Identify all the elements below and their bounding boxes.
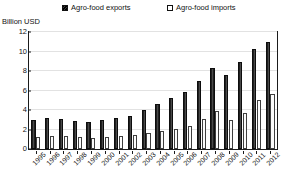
chart-plot-area: 024681012 199519961997199819992000200120… — [0, 0, 285, 180]
x-axis-tick-label: 2007 — [196, 151, 213, 168]
x-axis-tick-label: 2000 — [100, 151, 117, 168]
bar-exports — [224, 75, 228, 149]
x-axis: 1995199619971998199920002001200220032004… — [29, 151, 277, 180]
bar-group — [236, 32, 250, 149]
bar-imports — [105, 137, 109, 149]
bar-imports — [36, 137, 40, 149]
x-axis-tick-mark — [174, 151, 175, 154]
x-axis-tick-label: 1997 — [58, 151, 75, 168]
bar-group — [70, 32, 84, 149]
bar-exports — [155, 104, 159, 149]
bar-exports — [86, 122, 90, 149]
x-axis-tick-label: 2002 — [127, 151, 144, 168]
bar-exports — [169, 98, 173, 149]
bar-imports — [202, 119, 206, 149]
bar-group — [112, 32, 126, 149]
bar-exports — [238, 62, 242, 149]
bar-group — [263, 32, 277, 149]
bar-exports — [183, 92, 187, 149]
x-axis-tick-mark — [77, 151, 78, 154]
x-axis-tick-label: 2006 — [182, 151, 199, 168]
x-axis-tick-mark — [50, 151, 51, 154]
x-axis-tick-label: 1999 — [86, 151, 103, 168]
x-axis-tick-label: 1998 — [72, 151, 89, 168]
x-axis-tick-mark — [119, 151, 120, 154]
bar-imports — [146, 133, 150, 149]
x-axis-tick-mark — [229, 151, 230, 154]
x-axis-tick-label: 2009 — [224, 151, 241, 168]
x-axis-tick-mark — [105, 151, 106, 154]
bar-exports — [210, 68, 214, 149]
bar-group — [29, 32, 43, 149]
x-axis-tick-label: 2003 — [141, 151, 158, 168]
bar-group — [153, 32, 167, 149]
bar-group — [222, 32, 236, 149]
bar-group — [139, 32, 153, 149]
bar-group — [167, 32, 181, 149]
x-axis-tick-mark — [256, 151, 257, 154]
bar-imports — [50, 136, 54, 149]
y-axis: 024681012 — [0, 31, 28, 150]
x-axis-tick-label: 2008 — [210, 151, 227, 168]
bar-exports — [114, 118, 118, 149]
bar-imports — [257, 100, 261, 149]
bar-group — [98, 32, 112, 149]
bar-exports — [266, 42, 270, 149]
bar-imports — [215, 111, 219, 149]
x-axis-tick-mark — [91, 151, 92, 154]
y-axis-tick-label: 2 — [23, 126, 27, 134]
y-axis-tick-label: 12 — [19, 28, 27, 36]
bar-exports — [45, 118, 49, 149]
bar-exports — [142, 110, 146, 149]
bar-group — [194, 32, 208, 149]
y-axis-tick-label: 8 — [23, 67, 27, 75]
bar-imports — [160, 131, 164, 149]
bar-imports — [270, 94, 274, 149]
x-axis-tick-mark — [187, 151, 188, 154]
x-axis-tick-mark — [146, 151, 147, 154]
x-axis-tick-mark — [270, 151, 271, 154]
y-axis-tick-label: 10 — [19, 48, 27, 56]
y-axis-tick-label: 0 — [23, 145, 27, 153]
bar-exports — [59, 119, 63, 149]
x-axis-tick-mark — [160, 151, 161, 154]
bar-imports — [188, 126, 192, 149]
bar-exports — [31, 120, 35, 149]
bar-group — [208, 32, 222, 149]
y-axis-tick-label: 6 — [23, 87, 27, 95]
y-axis-tick-label: 4 — [23, 106, 27, 114]
x-axis-tick-mark — [132, 151, 133, 154]
bar-imports — [119, 136, 123, 149]
x-axis-tick-label: 2011 — [251, 151, 267, 167]
bar-imports — [133, 135, 137, 149]
bar-group — [181, 32, 195, 149]
bar-exports — [252, 49, 256, 149]
bar-group — [249, 32, 263, 149]
x-axis-tick-mark — [243, 151, 244, 154]
bar-exports — [197, 81, 201, 149]
bar-group — [43, 32, 57, 149]
x-axis-tick-mark — [63, 151, 64, 154]
x-axis-tick-label: 2012 — [265, 151, 282, 168]
bar-imports — [64, 136, 68, 149]
bar-imports — [174, 129, 178, 149]
bar-imports — [229, 120, 233, 149]
bar-exports — [73, 121, 77, 149]
bar-imports — [78, 137, 82, 149]
bar-imports — [91, 138, 95, 149]
x-axis-tick-mark — [201, 151, 202, 154]
bar-exports — [100, 120, 104, 149]
x-axis-tick-mark — [36, 151, 37, 154]
bars-layer — [29, 32, 277, 149]
x-axis-tick-label: 2004 — [155, 151, 172, 168]
x-axis-tick-mark — [215, 151, 216, 154]
bar-exports — [128, 116, 132, 149]
bar-group — [84, 32, 98, 149]
x-axis-tick-label: 1995 — [31, 151, 48, 168]
bar-group — [125, 32, 139, 149]
bar-imports — [243, 113, 247, 149]
bar-group — [57, 32, 71, 149]
